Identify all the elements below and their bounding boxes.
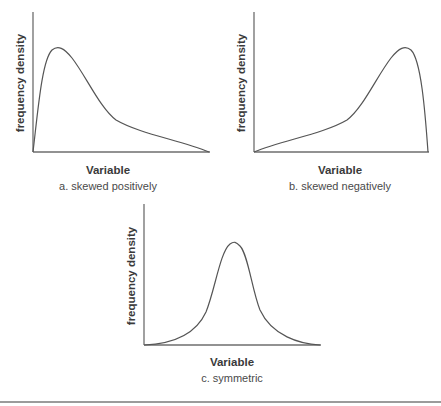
panel-a-caption: a. skewed positively xyxy=(59,180,157,192)
panel-c-x-axis-label: Variable xyxy=(210,356,254,368)
panel-b-y-axis-label: frequency density xyxy=(235,33,247,132)
panel-b-x-axis-label: Variable xyxy=(318,164,362,176)
panel-b-density-curve xyxy=(254,48,428,152)
panel-a-density-curve xyxy=(33,48,209,152)
panel-c-y-axis-label: frequency density xyxy=(125,226,137,325)
panel-a-y-axis-label: frequency density xyxy=(14,33,26,132)
panel-a-skewed-positively: frequency density Variable a. skewed pos… xyxy=(14,12,210,192)
panel-b-skewed-negatively: frequency density Variable b. skewed neg… xyxy=(235,12,429,192)
panel-c-symmetric: frequency density Variable c. symmetric xyxy=(125,204,321,384)
panel-a-x-axis-label: Variable xyxy=(86,164,130,176)
panel-c-density-curve xyxy=(144,242,320,345)
figure-skewness-distributions: frequency density Variable a. skewed pos… xyxy=(0,0,441,406)
panel-c-caption: c. symmetric xyxy=(201,372,263,384)
panel-b-caption: b. skewed negatively xyxy=(289,180,392,192)
